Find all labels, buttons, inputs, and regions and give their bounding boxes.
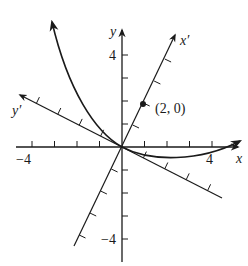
rotated-axes-diagram: x y x′ y′ 4 −4 4 −4 (2, 0) (0, 0, 248, 266)
y-axis-label: y (108, 24, 117, 39)
point-label: (2, 0) (155, 101, 186, 117)
x-prime-axis-label: x′ (179, 33, 190, 48)
y-axis (122, 30, 128, 262)
y-prime-axis-label: y′ (10, 103, 22, 118)
x-prime-axis (74, 35, 175, 246)
x-axis (16, 141, 238, 147)
x-axis-label: x (235, 151, 243, 166)
y-tick-label-positive: 4 (109, 48, 116, 63)
y-tick-label-negative: −4 (101, 232, 116, 247)
x-tick-label-positive: 4 (206, 152, 213, 167)
point-marker (140, 101, 146, 107)
x-tick-label-negative: −4 (16, 152, 31, 167)
parabola-curve (52, 22, 240, 158)
